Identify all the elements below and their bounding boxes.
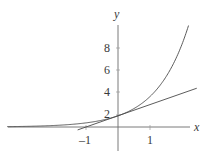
- plot-canvas: [0, 0, 212, 157]
- y-tick-label-6: 6: [94, 64, 110, 76]
- y-axis-label: y: [114, 8, 119, 20]
- y-tick-label-2: 2: [94, 108, 110, 120]
- y-tick-label-4: 4: [94, 86, 110, 98]
- y-tick-label-8: 8: [94, 42, 110, 54]
- exponential-plot-figure: y x 8 6 4 2 –1 1: [0, 0, 212, 157]
- x-tick-label-1: 1: [140, 134, 160, 146]
- x-tick-label-neg1: –1: [75, 134, 95, 146]
- x-axis-label: x: [194, 121, 199, 133]
